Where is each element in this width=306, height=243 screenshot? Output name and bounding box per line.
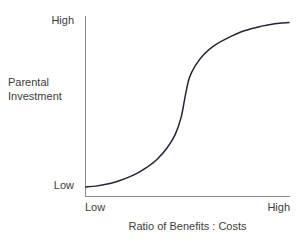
x-axis-tick-low: Low [85, 201, 105, 214]
x-axis-tick-high: High [223, 201, 290, 214]
x-axis-title: Ratio of Benefits : Costs [85, 220, 290, 233]
y-axis-title-line-2: Investment [8, 89, 78, 103]
chart-figure: High Low Parental Investment Low High Ra… [0, 0, 306, 243]
y-axis-spine [85, 16, 86, 197]
x-axis-spine [85, 196, 290, 197]
y-axis-tick-high: High [51, 14, 74, 27]
y-axis-title: Parental Investment [8, 75, 78, 103]
y-axis-title-line-1: Parental [8, 75, 78, 89]
y-axis-tick-low: Low [54, 179, 74, 192]
